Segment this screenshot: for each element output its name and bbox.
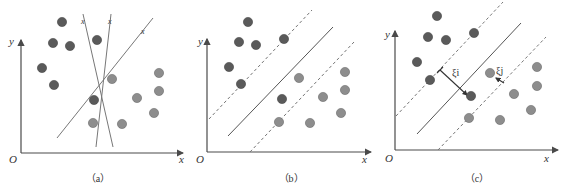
panel-caption-c: （c） <box>465 173 489 184</box>
class-dark-points <box>37 17 101 104</box>
origin-label: O <box>196 153 204 165</box>
slack-arrow-j <box>496 78 504 83</box>
panel-a: O x y x x x （a） <box>8 14 184 184</box>
x-axis-label: x <box>543 152 549 164</box>
y-axis-label: y <box>197 35 203 47</box>
line-label-3: x <box>140 27 145 36</box>
class-light-points <box>88 68 163 128</box>
panel-caption-a: （a） <box>86 173 110 184</box>
origin-label: O <box>385 152 393 164</box>
x-axis-label: x <box>178 153 184 165</box>
panel-b: O x y （b） <box>196 10 371 184</box>
x-axis-label: x <box>361 153 367 165</box>
y-axis-label: y <box>8 35 14 47</box>
class-dark-points <box>224 17 288 103</box>
line-label-2: x <box>107 17 112 26</box>
panel-caption-b: （b） <box>279 173 304 184</box>
slack-label-j: ξj <box>496 65 503 77</box>
svm-figure: O x y x x x （a） O <box>0 0 564 196</box>
line-label-1: x <box>80 17 85 26</box>
slack-label-i: ξi <box>452 67 459 79</box>
panel-c: O x y ξi ξj （c） <box>384 2 558 184</box>
y-axis-label: y <box>384 28 390 40</box>
candidate-line-3 <box>57 18 153 138</box>
origin-label: O <box>9 153 17 165</box>
